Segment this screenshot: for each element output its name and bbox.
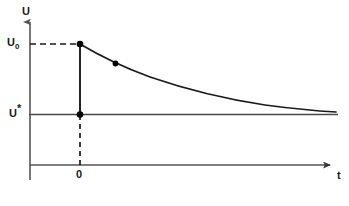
y-tick-label-u0: U0	[7, 37, 19, 51]
plot-canvas	[0, 0, 349, 206]
ustar-superscript: *	[17, 102, 21, 114]
marker-u0-peak	[77, 41, 84, 48]
x-tick-label-zero: 0	[76, 169, 82, 180]
y-axis-label: U	[22, 6, 30, 17]
u0-base: U	[7, 36, 15, 48]
ustar-base: U	[9, 107, 17, 119]
x-axis-label: t	[337, 170, 341, 181]
marker-ustar-intersection	[77, 111, 84, 118]
marker-curve-sample	[113, 61, 119, 67]
y-tick-label-ustar: U*	[9, 108, 21, 119]
voltage-decay-figure: U U0 U* 0 t	[0, 0, 349, 206]
decay-curve	[80, 44, 336, 112]
u0-subscript: 0	[15, 42, 19, 51]
